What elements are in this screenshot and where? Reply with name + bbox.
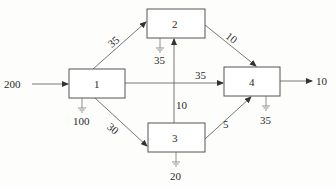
edge-1-4-label: 35 (195, 69, 207, 81)
edge-3-2-label: 10 (176, 99, 188, 111)
edge-1-3: 30 (95, 98, 147, 146)
node-4: 4 (224, 67, 280, 96)
edge-3-2: 10 (174, 39, 188, 123)
edge-3-4: 5 (205, 97, 251, 139)
source-label: 200 (4, 78, 21, 90)
edge-1-2-label: 35 (105, 33, 122, 50)
sink-label: 10 (316, 75, 328, 87)
sink-arrow: 10 (280, 75, 328, 87)
node-2-label: 2 (172, 18, 178, 30)
edge-2-4-label: 10 (224, 30, 240, 47)
demand-label-node-2: 35 (154, 54, 166, 66)
node-4-label: 4 (249, 76, 255, 88)
ground-icon-node-4 (262, 96, 270, 110)
node-3: 3 (148, 123, 205, 152)
edge-3-4-label: 5 (223, 118, 229, 130)
node-1-label: 1 (94, 78, 100, 90)
demand-label-node-3: 20 (170, 170, 182, 182)
edge-1-2: 35 (93, 22, 146, 69)
edge-2-4: 10 (205, 25, 256, 66)
ground-icon-node-1 (78, 98, 86, 112)
node-1: 1 (69, 69, 125, 98)
node-3-label: 3 (172, 132, 178, 144)
demand-label-node-4: 35 (260, 114, 272, 126)
ground-icon-node-2 (156, 38, 164, 52)
node-2: 2 (147, 9, 205, 38)
source-arrow: 200 (4, 78, 68, 90)
edge-1-3-label: 30 (105, 120, 122, 137)
ground-icon-node-3 (172, 152, 180, 166)
demand-label-node-1: 100 (73, 115, 90, 127)
network-flow-diagram: 200 35 35 30 10 10 5 1 (0, 0, 336, 187)
